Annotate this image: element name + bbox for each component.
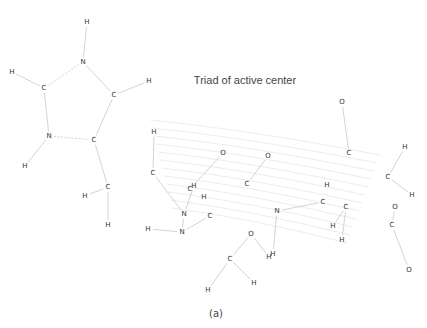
bond-b1-b2 [153,137,154,168]
atom-c: C [321,198,326,206]
atom-c: C [112,91,117,99]
atom-h: H [201,193,206,201]
atoms: HNHCCHNCHCHHHCOOCCHHNCNHNOHHCHHHCCHHOCHC… [9,18,414,294]
atom-c: C [347,149,352,157]
bond-a7-a8 [54,136,89,139]
atom-h: H [151,128,156,136]
atom-n: N [181,210,186,218]
bond-a7-a9 [28,140,46,162]
bond-b7-b9 [186,191,193,210]
bond-b11-b10 [186,218,205,229]
bond-d4-d3 [336,211,343,222]
atom-c: C [344,203,349,211]
background-arc [154,136,374,171]
background-arcs [150,120,380,243]
bond-d3-d5 [343,212,346,235]
atom-c: C [245,180,250,188]
atom-o: O [265,152,271,160]
bond-c5-c7 [234,263,251,280]
atom-c: C [106,183,111,191]
bond-f1-f2 [390,151,402,172]
atom-c: C [208,212,213,220]
atom-h: H [84,18,89,26]
atom-h: H [402,143,407,151]
bond-a5-a8 [96,100,112,136]
atom-h: H [251,279,256,287]
bond-a8-a10 [95,145,106,182]
atom-h: H [146,77,151,85]
figure-caption: (a) [209,308,223,319]
bond-f2-f3 [392,180,408,192]
atom-h: H [9,68,14,76]
bond-c2-c4 [254,238,266,253]
background-arc [172,208,347,243]
atom-c: C [228,255,233,263]
atom-o: O [339,98,345,106]
bond-a4-a3 [16,74,39,86]
molecule-diagram: HNHCCHNCHCHHHCOOCCHHNCNHNOHHCHHHCCHHOCHC… [0,0,427,328]
atom-o: O [406,266,412,274]
background-arc [158,152,368,187]
atom-c: C [390,221,395,229]
bond-a4-a7 [45,93,49,131]
atom-h: H [22,162,27,170]
atom-h: H [205,286,210,294]
bond-b9-b11 [183,219,184,227]
bond-c5-c6 [211,263,227,286]
atom-h: H [409,191,414,199]
atom-h: H [330,222,335,230]
atom-h: H [105,221,110,229]
bond-f5-f6 [394,230,407,266]
bond-a10-a11 [90,189,104,194]
atom-h: H [82,192,87,200]
bond-b11-b12 [153,229,177,231]
atom-o: O [220,149,226,157]
atom-h: H [339,236,344,244]
bond-b4-b5 [250,160,265,180]
atom-n: N [274,207,279,215]
diagram-title: Triad of active center [194,74,297,86]
atom-o: O [248,230,254,238]
atom-h: H [324,181,329,189]
bond-c2-c5 [233,238,248,255]
atom-c: C [92,136,97,144]
atom-h: H [191,182,196,190]
bond-e1-e2 [343,107,349,148]
atom-n: N [80,58,85,66]
bond-a2-a5 [86,66,110,92]
atom-c: C [386,173,391,181]
bond-c1-c3 [273,216,276,249]
atom-c: C [151,169,156,177]
bond-f4-f5 [393,212,394,220]
bond-b3-b6 [193,157,219,186]
bond-a5-a6 [119,83,145,93]
atom-h: H [266,253,271,261]
atom-h: H [145,225,150,233]
atom-n: N [46,132,51,140]
atom-n: N [179,228,184,236]
atom-o: O [392,203,398,211]
bond-a1-a2 [83,27,86,57]
bond-a2-a4 [48,65,79,85]
atom-c: C [42,84,47,92]
